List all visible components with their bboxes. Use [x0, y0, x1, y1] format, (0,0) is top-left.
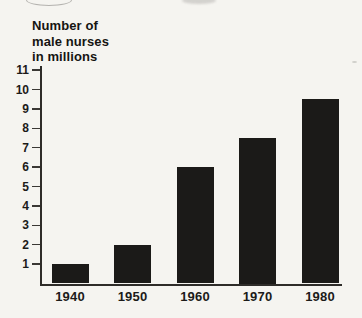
x-axis-label-1980: 1980: [295, 290, 345, 303]
y-axis-tick-2: [32, 244, 40, 246]
y-axis-tick-4: [32, 205, 40, 207]
y-axis-tick-label-8: 8: [0, 122, 29, 134]
scan-artifact-arc: [26, 0, 72, 6]
y-axis-tick-label-5: 5: [0, 181, 29, 193]
y-axis-tick-5: [32, 186, 40, 188]
y-axis-tick-label-10: 10: [0, 84, 29, 96]
y-axis-tick-8: [32, 128, 40, 130]
y-axis-tick-label-1: 1: [0, 258, 29, 270]
y-axis-tick-10: [32, 89, 40, 91]
scan-artifact-dot: [352, 61, 357, 63]
y-axis-tick-label-9: 9: [0, 103, 29, 115]
y-axis-tick-11: [32, 69, 40, 71]
y-axis-tick-label-4: 4: [0, 200, 29, 212]
bar-1950: [114, 245, 151, 284]
scan-artifact-smudge: [182, 0, 216, 4]
x-axis-label-1960: 1960: [170, 290, 220, 303]
chart-title-line-3: in millions: [32, 49, 109, 65]
y-axis-tick-1: [32, 263, 40, 265]
y-axis-tick-7: [32, 147, 40, 149]
y-axis-tick-3: [32, 225, 40, 227]
y-axis-tick-label-3: 3: [0, 219, 29, 231]
y-axis-tick-6: [32, 166, 40, 168]
x-axis-label-1970: 1970: [233, 290, 283, 303]
chart-title: Number of male nurses in millions: [32, 18, 109, 65]
x-axis-label-1950: 1950: [108, 290, 158, 303]
x-axis-line: [40, 284, 342, 286]
bar-1940: [52, 264, 89, 283]
y-axis-tick-label-7: 7: [0, 142, 29, 154]
y-axis-tick-label-2: 2: [0, 239, 29, 251]
bar-1960: [177, 167, 214, 283]
bar-1970: [239, 138, 276, 284]
x-axis-label-1940: 1940: [45, 290, 95, 303]
y-axis-line: [40, 66, 42, 286]
chart-title-line-1: Number of: [32, 18, 109, 34]
chart-title-line-2: male nurses: [32, 34, 109, 50]
bar-chart-figure: Number of male nurses in millions 123456…: [0, 0, 362, 318]
bar-1980: [302, 99, 339, 283]
y-axis-tick-label-6: 6: [0, 161, 29, 173]
y-axis-tick-label-11: 11: [0, 64, 29, 76]
y-axis-tick-9: [32, 108, 40, 110]
